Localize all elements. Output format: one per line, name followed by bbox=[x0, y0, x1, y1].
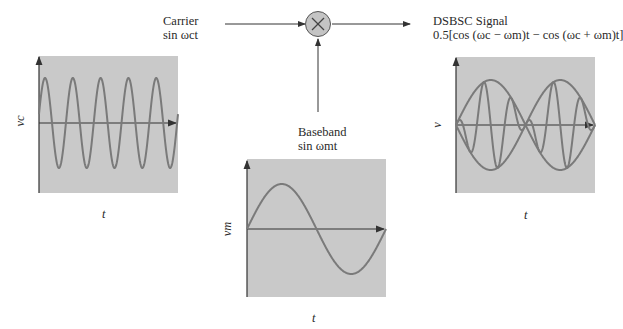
baseband-title: Baseband bbox=[298, 125, 347, 139]
dsbsc-xlabel: t bbox=[524, 208, 527, 222]
baseband-plot bbox=[247, 159, 386, 297]
mixer-icon bbox=[306, 12, 331, 37]
output-title: DSBSC Signal bbox=[433, 14, 508, 28]
carrier-formula: sin ωct bbox=[163, 28, 198, 42]
baseband-xlabel: t bbox=[312, 311, 315, 325]
dsbsc-ylabel: v bbox=[430, 122, 444, 128]
carrier-ylabel: vc bbox=[13, 115, 27, 126]
dsbsc-plot bbox=[456, 57, 595, 193]
baseband-ylabel: vm bbox=[220, 222, 234, 237]
carrier-plot bbox=[39, 56, 178, 193]
carrier-title: Carrier bbox=[163, 14, 198, 28]
carrier-xlabel: t bbox=[102, 207, 105, 221]
baseband-formula: sin ωmt bbox=[298, 139, 337, 153]
output-formula: 0.5[cos (ωc − ωm)t − cos (ωc + ωm)t] bbox=[433, 28, 623, 42]
